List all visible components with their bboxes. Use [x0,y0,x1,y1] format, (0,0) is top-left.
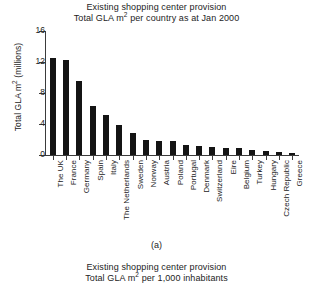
x-axis-tick-label: Italy [109,160,118,175]
bar [116,125,122,155]
x-axis-tick [186,156,187,160]
x-axis-tick-label: Eire [229,160,238,174]
x-axis-tick [173,156,174,160]
x-axis-tick-label: Portugal [189,160,198,190]
bar [63,60,69,155]
x-axis-tick-label: Poland [176,160,185,185]
x-axis-tick-label: Czech Republic [282,160,291,217]
bar-series [46,31,299,155]
x-axis-tick-label: Spain [96,160,105,181]
y-axis-tick-label: 0 [11,149,45,159]
bar-chart-figure: Total GLA m2 (millions) 0481216 The UKFr… [0,26,313,236]
x-axis-tick [93,156,94,160]
x-axis-tick-label: Belgium [242,160,251,189]
x-axis-tick-label: The UK [56,160,65,187]
bottom-title-line-2-pre: Total GLA m [85,273,135,283]
x-axis-tick [199,156,200,160]
bottom-title-line-2-post: per 1,000 inhabitants [139,273,228,283]
bar [249,150,255,155]
x-axis-tick-label: Norway [149,160,158,187]
bottom-title-line-1: Existing shopping center provision [0,262,313,273]
x-axis-tick [212,156,213,160]
x-axis-tick [79,156,80,160]
bar [156,141,162,155]
x-axis-tick [106,156,107,160]
x-axis-tick-label: Hungary [269,160,278,191]
x-axis-tick [53,156,54,160]
x-axis-tick [279,156,280,160]
bar [143,140,149,155]
x-axis-tick [133,156,134,160]
y-axis-tick-label: 12 [11,56,45,66]
top-title-line-2-pre: Total GLA m [74,13,124,23]
bar [236,148,242,155]
figure-caption-a: (a) [0,240,313,250]
x-axis-tick [292,156,293,160]
bar [50,58,56,155]
bottom-title-line-2: Total GLA m2 per 1,000 inhabitants [0,273,313,284]
x-axis-tick [119,156,120,160]
y-axis-ticks: 0481216 [0,26,45,166]
top-title-line-2: Total GLA m2 per country as at Jan 2000 [0,13,313,24]
x-axis-tick-label: Austria [162,160,171,185]
bar [276,152,282,155]
x-axis-tick [252,156,253,160]
x-axis-tick [239,156,240,160]
x-axis-tick-label: Germany [82,160,91,193]
bar [76,81,82,155]
top-title-line-2-post: per country as at Jan 2000 [128,13,240,23]
y-axis-tick-label: 16 [11,25,45,35]
x-axis-tick-label: Turkey [255,160,264,184]
x-axis-tick-label: Sweden [136,160,145,189]
x-axis-tick-label: Switzerland [215,160,224,202]
bar [183,145,189,155]
bar [90,106,96,155]
x-axis-tick-label: France [69,160,78,185]
x-axis-tick [159,156,160,160]
bar [289,153,295,155]
bar [103,115,109,155]
x-axis-tick [226,156,227,160]
bar [130,133,136,155]
y-axis-tick-label: 4 [11,118,45,128]
bar [223,148,229,155]
bar [263,151,269,155]
x-axis-tick [146,156,147,160]
bar [170,141,176,155]
top-title-line-1: Existing shopping center provision [0,2,313,13]
x-axis-tick-label: Denmark [202,160,211,193]
x-axis-tick-label: Greece [295,160,304,187]
x-axis-tick [266,156,267,160]
bar [209,147,215,155]
x-axis-tick-labels: The UKFranceGermanySpainItalyThe Netherl… [45,160,300,240]
top-chart-title: Existing shopping center provision Total… [0,2,313,24]
x-axis-tick [66,156,67,160]
bar [196,146,202,155]
y-axis-tick-label: 8 [11,87,45,97]
bottom-chart-title: Existing shopping center provision Total… [0,262,313,284]
x-axis-tick-label: The Netherlands [122,160,131,220]
